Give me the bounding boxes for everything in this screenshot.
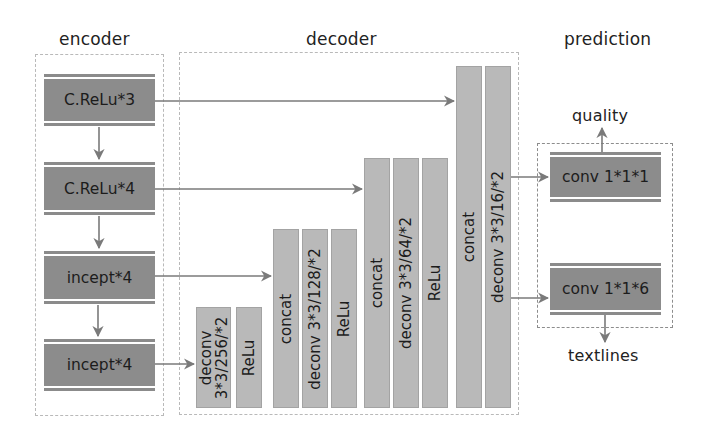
connection-arrows (0, 0, 708, 441)
